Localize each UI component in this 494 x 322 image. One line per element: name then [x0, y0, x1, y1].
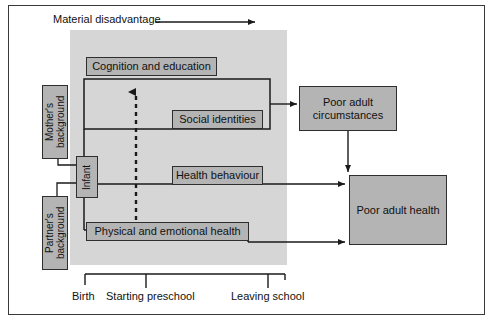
timeline-label-starting-preschool: Starting preschool: [106, 290, 195, 302]
poor-adult-health-label: Poor adult health: [356, 204, 439, 217]
infant-label: Infant: [81, 164, 93, 189]
poor-adult-circumstances-label: Poor adultcircumstances: [313, 96, 383, 121]
partners-background-label: Partner'sbackground: [44, 207, 67, 259]
timeline-label-birth: Birth: [72, 290, 95, 302]
node-social-identities[interactable]: Social identities: [172, 110, 263, 129]
node-physical-and-emotional-health[interactable]: Physical and emotional health: [86, 222, 249, 241]
social-identities-label: Social identities: [179, 113, 255, 126]
node-partners-background[interactable]: Partner'sbackground: [42, 196, 68, 270]
node-infant[interactable]: Infant: [76, 156, 98, 198]
material-disadvantage-label: Material disadvantage: [53, 13, 161, 25]
node-poor-adult-circumstances[interactable]: Poor adultcircumstances: [299, 86, 397, 131]
cognition-and-education-label: Cognition and education: [92, 60, 211, 73]
physical-and-emotional-health-label: Physical and emotional health: [94, 225, 240, 238]
node-poor-adult-health[interactable]: Poor adult health: [349, 175, 447, 245]
node-health-behaviour[interactable]: Health behaviour: [172, 166, 263, 185]
node-cognition-and-education[interactable]: Cognition and education: [86, 57, 217, 76]
timeline-label-leaving-school: Leaving school: [231, 290, 304, 302]
node-mothers-background[interactable]: Mother'sbackground: [42, 85, 68, 159]
health-behaviour-label: Health behaviour: [176, 169, 259, 182]
diagram-page: Material disadvantage Mother'sbackground…: [0, 0, 494, 322]
mothers-background-label: Mother'sbackground: [44, 96, 67, 148]
